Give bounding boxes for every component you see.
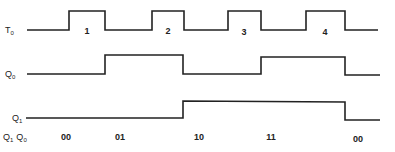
state-label-00: 00 bbox=[61, 132, 71, 142]
waveform-q0 bbox=[27, 55, 380, 75]
waveform-q1 bbox=[26, 101, 380, 120]
state-label-00-final: 00 bbox=[353, 134, 363, 144]
state-row-label: Q1Q0 bbox=[3, 132, 27, 143]
signal-q1: Q1 bbox=[12, 101, 380, 124]
state-label-01: 01 bbox=[115, 132, 125, 142]
timing-diagram: T0 1 2 3 4 Q0 Q1 Q1Q0 00 01 10 11 00 bbox=[0, 0, 395, 152]
signal-t0: T0 1 2 3 4 bbox=[5, 11, 378, 37]
state-label-10: 10 bbox=[194, 132, 204, 142]
signal-label-q0: Q0 bbox=[5, 69, 16, 80]
pulse-label-3: 3 bbox=[241, 27, 246, 37]
pulse-label-4: 4 bbox=[322, 27, 327, 37]
state-label-11: 11 bbox=[266, 132, 276, 142]
pulse-label-2: 2 bbox=[165, 26, 170, 36]
pulse-label-1: 1 bbox=[84, 26, 89, 36]
state-row: Q1Q0 00 01 10 11 00 bbox=[3, 132, 363, 144]
signal-q0: Q0 bbox=[5, 55, 380, 80]
signal-label-q1: Q1 bbox=[12, 113, 23, 124]
signal-label-t0: T0 bbox=[5, 25, 15, 36]
